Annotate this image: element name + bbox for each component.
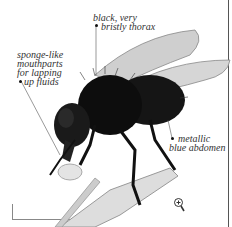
zoom-in-button[interactable] <box>173 197 185 213</box>
fly-illustration <box>0 0 232 227</box>
label-abdomen: metallic blue abdomen <box>173 134 225 152</box>
label-mouthparts-line4: up fluids <box>17 77 63 86</box>
label-abdomen-line2: blue abdomen <box>169 143 225 152</box>
label-mouthparts: sponge-like mouthparts for lapping up fl… <box>17 50 63 86</box>
zoom-in-icon <box>173 197 185 213</box>
label-thorax-line2: bristly thorax <box>93 22 155 31</box>
label-thorax: black, very bristly thorax <box>93 13 155 31</box>
